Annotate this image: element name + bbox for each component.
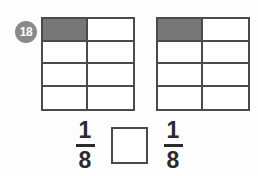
left-fraction-grid bbox=[41, 17, 135, 111]
grid-cell bbox=[203, 19, 248, 42]
grid-cell bbox=[203, 42, 248, 65]
left-fraction: 1 8 bbox=[76, 119, 95, 172]
right-fraction-numerator: 1 bbox=[167, 119, 180, 143]
left-fraction-numerator: 1 bbox=[79, 119, 92, 143]
grid-cell bbox=[158, 42, 203, 65]
grid-cell bbox=[88, 19, 133, 42]
worksheet-item: 18 1 8 1 8 bbox=[0, 0, 258, 176]
right-fraction: 1 8 bbox=[164, 119, 183, 172]
grid-cell bbox=[203, 64, 248, 87]
answer-box[interactable] bbox=[111, 127, 148, 164]
grid-cell bbox=[88, 87, 133, 110]
grid-cell bbox=[158, 87, 203, 110]
left-fraction-denominator: 8 bbox=[79, 148, 92, 172]
grid-cell bbox=[88, 64, 133, 87]
grid-cell bbox=[43, 87, 88, 110]
grid-cell bbox=[43, 64, 88, 87]
grid-cell bbox=[158, 64, 203, 87]
right-fraction-grid bbox=[156, 17, 250, 111]
question-number-badge: 18 bbox=[15, 21, 37, 43]
fraction-expression: 1 8 1 8 bbox=[0, 116, 258, 174]
grid-cell bbox=[203, 87, 248, 110]
right-fraction-denominator: 8 bbox=[167, 148, 180, 172]
grid-cell bbox=[88, 42, 133, 65]
grid-cell bbox=[43, 42, 88, 65]
grid-cell bbox=[43, 19, 88, 42]
grid-cell bbox=[158, 19, 203, 42]
